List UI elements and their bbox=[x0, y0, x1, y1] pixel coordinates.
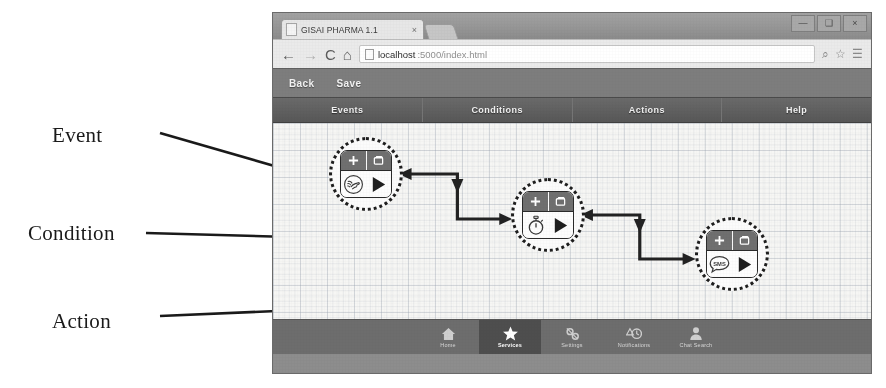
browser-tab-strip: GISAI PHARMA 1.1 × bbox=[281, 19, 456, 39]
browser-window: GISAI PHARMA 1.1 × — ❑ × ← → C ⌂ localho… bbox=[272, 12, 872, 374]
node-card-body bbox=[523, 212, 573, 238]
node-card-actions bbox=[707, 231, 757, 251]
omnibox-actions: ⌕ ☆ ☰ bbox=[822, 48, 863, 60]
bottom-nav-label: Settings bbox=[561, 342, 582, 348]
node-card-body: SMS bbox=[707, 251, 757, 277]
person-icon bbox=[689, 326, 703, 341]
flow-node-action[interactable]: SMS bbox=[695, 217, 769, 291]
close-icon[interactable]: × bbox=[412, 25, 419, 35]
bottom-nav-label: Notifications bbox=[618, 342, 651, 348]
browser-tab-title: GISAI PHARMA 1.1 bbox=[301, 25, 408, 35]
node-card-actions bbox=[341, 151, 391, 171]
plus-icon[interactable] bbox=[707, 231, 732, 250]
bookmark-icon[interactable]: ☆ bbox=[835, 48, 846, 60]
svg-text:SMS: SMS bbox=[713, 260, 726, 266]
save-button[interactable]: Save bbox=[337, 78, 362, 89]
tab-conditions[interactable]: Conditions bbox=[423, 98, 573, 122]
tab-help[interactable]: Help bbox=[722, 98, 871, 122]
forward-icon[interactable]: → bbox=[303, 47, 318, 62]
play-icon[interactable] bbox=[548, 216, 573, 235]
stopwatch-icon[interactable] bbox=[523, 215, 548, 236]
bottom-nav-spacer-left bbox=[273, 320, 417, 354]
play-icon[interactable] bbox=[732, 255, 757, 274]
node-card-body bbox=[341, 171, 391, 197]
connector-event-condition bbox=[405, 174, 513, 225]
bottom-nav-label: Chat Search bbox=[680, 342, 713, 348]
bottom-nav-label: Services bbox=[498, 342, 522, 348]
plus-icon[interactable] bbox=[523, 192, 548, 211]
url-input[interactable]: localhost :5000/index.html bbox=[359, 45, 815, 63]
bottom-nav-label: Home bbox=[440, 342, 455, 348]
sms-bubble-icon[interactable]: SMS bbox=[707, 255, 732, 274]
flow-node-event[interactable] bbox=[329, 137, 403, 211]
minimize-icon[interactable]: — bbox=[791, 15, 815, 32]
connector-condition-action bbox=[586, 215, 696, 265]
new-tab-button[interactable] bbox=[424, 24, 459, 39]
browser-tab[interactable]: GISAI PHARMA 1.1 × bbox=[281, 19, 424, 39]
annotation-label-condition: Condition bbox=[28, 221, 115, 246]
clock-icon bbox=[626, 326, 642, 341]
copy-icon[interactable] bbox=[366, 151, 392, 170]
home-icon bbox=[441, 327, 456, 341]
annotation-label-action: Action bbox=[52, 309, 111, 334]
url-path: :5000/index.html bbox=[417, 49, 487, 60]
plus-icon[interactable] bbox=[341, 151, 366, 170]
app-bottom-nav: Home Services Settings Notifications bbox=[273, 319, 871, 354]
search-icon[interactable]: ⌕ bbox=[822, 48, 829, 60]
menu-icon[interactable]: ☰ bbox=[852, 48, 863, 60]
nfc-tap-icon[interactable] bbox=[341, 174, 366, 195]
app-tab-bar: Events Conditions Actions Help bbox=[273, 97, 871, 123]
flow-canvas[interactable]: SMS bbox=[273, 123, 871, 319]
tab-actions[interactable]: Actions bbox=[573, 98, 723, 122]
back-button[interactable]: Back bbox=[289, 78, 315, 89]
maximize-icon[interactable]: ❑ bbox=[817, 15, 841, 32]
reload-icon[interactable]: C bbox=[325, 47, 336, 62]
tab-events[interactable]: Events bbox=[273, 98, 423, 122]
node-card-actions bbox=[523, 192, 573, 212]
browser-title-bar: GISAI PHARMA 1.1 × — ❑ × bbox=[273, 13, 871, 39]
copy-icon[interactable] bbox=[548, 192, 574, 211]
page-icon bbox=[286, 23, 297, 36]
url-host: localhost bbox=[378, 49, 416, 60]
annotation-label-event: Event bbox=[52, 123, 102, 148]
flow-node-condition[interactable] bbox=[511, 178, 585, 252]
window-controls: — ❑ × bbox=[791, 15, 867, 32]
gear-icon bbox=[565, 326, 580, 341]
home-icon[interactable]: ⌂ bbox=[343, 47, 352, 62]
bottom-nav-item-notifications[interactable]: Notifications bbox=[603, 320, 665, 354]
node-card bbox=[340, 150, 392, 198]
page-icon bbox=[365, 49, 374, 60]
bottom-nav-item-home[interactable]: Home bbox=[417, 320, 479, 354]
close-icon[interactable]: × bbox=[843, 15, 867, 32]
bottom-nav-item-chat-search[interactable]: Chat Search bbox=[665, 320, 727, 354]
bottom-nav-spacer-right bbox=[727, 320, 871, 354]
star-icon bbox=[502, 326, 519, 341]
node-card bbox=[522, 191, 574, 239]
play-icon[interactable] bbox=[366, 175, 391, 194]
bottom-nav-item-services[interactable]: Services bbox=[479, 320, 541, 354]
copy-icon[interactable] bbox=[732, 231, 758, 250]
bottom-nav-item-settings[interactable]: Settings bbox=[541, 320, 603, 354]
back-icon[interactable]: ← bbox=[281, 47, 296, 62]
browser-omnibox-row: ← → C ⌂ localhost :5000/index.html ⌕ ☆ ☰ bbox=[273, 39, 871, 68]
app-toolbar: Back Save bbox=[273, 68, 871, 97]
node-card: SMS bbox=[706, 230, 758, 278]
